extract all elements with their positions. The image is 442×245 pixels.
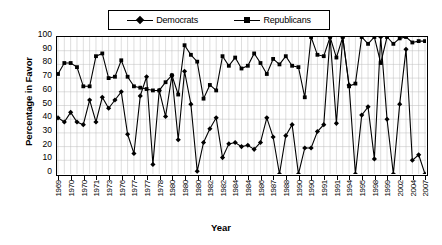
data-point-square xyxy=(391,42,395,46)
data-point-square xyxy=(385,37,389,39)
x-axis-ticks: 1969197019701971197319761977197719781980… xyxy=(56,180,428,222)
data-point-diamond xyxy=(271,134,276,139)
x-tick-label: 1980 xyxy=(181,180,190,197)
data-point-square xyxy=(221,54,225,58)
y-tick-label: 70 xyxy=(22,71,52,79)
data-point-square xyxy=(157,89,161,93)
series-lines xyxy=(57,37,426,174)
x-tick-label: 1973 xyxy=(105,180,114,197)
x-tick-label: 1990 xyxy=(307,180,316,197)
data-point-square xyxy=(57,72,60,76)
data-point-square xyxy=(113,75,117,79)
x-tick-label: 1991 xyxy=(333,180,342,197)
y-axis-ticks: 0102030405060708090100 xyxy=(22,32,52,180)
data-point-square xyxy=(297,65,301,69)
data-point-diamond xyxy=(182,69,187,74)
data-point-square xyxy=(233,56,237,60)
data-point-square xyxy=(252,52,256,56)
data-point-diamond xyxy=(87,97,92,102)
y-tick-label: 10 xyxy=(22,153,52,161)
data-point-square xyxy=(240,67,244,71)
x-tick-label: 1980 xyxy=(168,180,177,197)
data-point-square xyxy=(132,84,136,88)
data-point-diamond xyxy=(290,122,295,127)
y-tick-label: 90 xyxy=(22,44,52,52)
data-point-diamond xyxy=(334,121,339,126)
x-tick-label: 1970 xyxy=(80,180,89,197)
data-point-diamond xyxy=(226,141,231,146)
data-point-diamond xyxy=(302,145,307,150)
data-point-square xyxy=(62,61,66,65)
x-tick-label: 1990 xyxy=(295,180,304,197)
data-point-diamond xyxy=(397,102,402,107)
x-tick-label: 1987 xyxy=(269,180,278,197)
data-point-square xyxy=(259,61,263,65)
data-point-square xyxy=(271,57,275,61)
data-point-diamond xyxy=(353,171,358,174)
data-point-diamond xyxy=(403,47,408,52)
x-tick-label: 2007 xyxy=(421,180,430,197)
data-point-diamond xyxy=(296,171,301,174)
data-point-square xyxy=(335,56,339,60)
data-point-diamond xyxy=(93,119,98,124)
plot-area xyxy=(56,36,428,176)
chart-container: Democrats Republicans Percentage in Favo… xyxy=(0,0,442,245)
data-point-square xyxy=(353,82,357,86)
data-point-diamond xyxy=(264,115,269,120)
data-point-diamond xyxy=(150,162,155,167)
data-point-square xyxy=(81,84,85,88)
data-point-diamond xyxy=(163,114,168,119)
x-tick-label: 2004 xyxy=(409,180,418,197)
data-point-square xyxy=(119,58,123,62)
data-point-diamond xyxy=(372,156,377,161)
data-point-square xyxy=(183,43,187,47)
x-tick-label: 1980 xyxy=(194,180,203,197)
y-tick-label: 60 xyxy=(22,85,52,93)
data-point-square xyxy=(227,64,231,68)
data-point-square xyxy=(246,64,250,68)
data-point-square xyxy=(69,61,73,65)
data-point-diamond xyxy=(309,145,314,150)
legend-entry-republicans: Republicans xyxy=(234,15,310,25)
data-point-square xyxy=(284,54,288,58)
data-point-square xyxy=(423,39,426,43)
data-point-square xyxy=(189,53,193,57)
y-tick-label: 20 xyxy=(22,140,52,148)
data-point-square xyxy=(404,37,408,39)
data-point-diamond xyxy=(384,117,389,122)
data-point-diamond xyxy=(391,171,396,174)
y-tick-label: 30 xyxy=(22,126,52,134)
data-point-diamond xyxy=(125,132,130,137)
data-point-square xyxy=(145,87,149,91)
data-point-square xyxy=(278,63,282,67)
y-tick-label: 0 xyxy=(22,167,52,175)
data-point-square xyxy=(379,61,383,65)
data-point-diamond xyxy=(201,140,206,145)
data-point-square xyxy=(151,89,155,93)
data-point-diamond xyxy=(188,102,193,107)
x-tick-label: 1991 xyxy=(320,180,329,197)
data-point-diamond xyxy=(176,137,181,142)
data-point-diamond xyxy=(214,115,219,120)
x-tick-label: 1982 xyxy=(206,180,215,197)
x-tick-label: 1986 xyxy=(257,180,266,197)
data-point-square xyxy=(410,41,414,45)
data-point-square xyxy=(164,80,168,84)
square-marker-icon xyxy=(234,16,260,25)
x-tick-label: 1971 xyxy=(92,180,101,197)
chart-legend: Democrats Republicans xyxy=(108,10,330,30)
data-point-square xyxy=(360,37,364,39)
x-tick-label: 1970 xyxy=(67,180,76,197)
data-point-diamond xyxy=(100,95,105,100)
y-tick-label: 40 xyxy=(22,112,52,120)
data-point-square xyxy=(322,54,326,58)
x-tick-label: 1984 xyxy=(244,180,253,197)
data-point-diamond xyxy=(283,133,288,138)
x-axis-title: Year xyxy=(0,222,442,233)
data-point-square xyxy=(265,72,269,76)
x-tick-label: 1984 xyxy=(231,180,240,197)
data-point-diamond xyxy=(195,169,200,174)
data-point-diamond xyxy=(81,122,86,127)
data-point-square xyxy=(290,64,294,68)
data-point-diamond xyxy=(131,151,136,156)
